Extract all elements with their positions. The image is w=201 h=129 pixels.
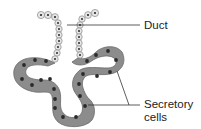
secretory-cells-label: Secretory cells [144, 98, 193, 124]
secretory-cells-label-line1: Secretory [144, 98, 193, 111]
secretory-leader-line-angled [117, 71, 129, 105]
right-duct [76, 9, 99, 58]
duct-label: Duct [144, 19, 168, 32]
secretory-tissue [14, 47, 124, 127]
secretory-cells-label-line2: cells [144, 111, 193, 124]
left-duct [37, 11, 62, 62]
